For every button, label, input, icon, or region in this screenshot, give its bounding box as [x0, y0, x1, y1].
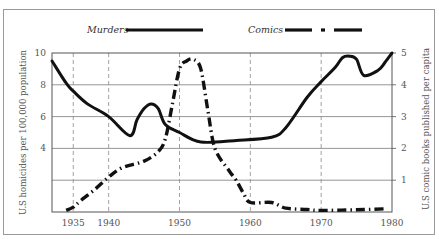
right-y-tick-label: 4 — [401, 80, 407, 90]
right-axis-title: U.S comic books published per capita — [421, 48, 431, 210]
comics-series-line — [66, 59, 385, 211]
x-tick-label: 1935 — [62, 218, 85, 228]
left-y-tick-label: 6 — [40, 112, 46, 122]
legend-label-murders: Murders — [86, 24, 129, 35]
right-y-tick-label: 2 — [401, 143, 407, 153]
plot-area — [52, 53, 392, 212]
murders-series-line — [52, 53, 392, 142]
x-tick-label: 1950 — [168, 218, 191, 228]
legend-label-comics: Comics — [248, 24, 283, 35]
axis-ticks: 1935194019501960197019804681012345 — [35, 48, 407, 228]
legend: Murders Comics — [86, 24, 362, 35]
left-y-tick-label: 8 — [40, 80, 46, 90]
dual-axis-line-chart: Murders Comics 1935194019501960197019804… — [0, 0, 439, 239]
x-tick-label: 1970 — [310, 218, 333, 228]
grid — [52, 53, 392, 212]
right-y-tick-label: 5 — [401, 48, 407, 58]
left-axis-title: U.S homicides per 100,000 population — [18, 49, 28, 215]
x-tick-label: 1980 — [381, 218, 404, 228]
right-y-tick-label: 3 — [401, 112, 407, 122]
left-y-tick-label: 4 — [40, 143, 46, 153]
right-y-tick-label: 1 — [401, 175, 407, 185]
left-y-tick-label: 10 — [35, 48, 47, 58]
x-tick-label: 1940 — [97, 218, 120, 228]
x-tick-label: 1960 — [239, 218, 262, 228]
